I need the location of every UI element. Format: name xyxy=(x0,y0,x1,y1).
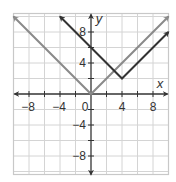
y-tick-label: 4 xyxy=(79,56,86,70)
y-tick-label: −4 xyxy=(72,118,86,132)
x-tick-label: −8 xyxy=(21,100,35,114)
x-tick-label: −4 xyxy=(52,100,66,114)
origin-label: 0 xyxy=(82,100,89,114)
coordinate-plane-chart: −8 −4 0 4 8 8 4 −4 −8 x y xyxy=(0,0,176,182)
x-tick-label: 8 xyxy=(150,100,157,114)
x-tick-label: 4 xyxy=(119,100,126,114)
y-tick-label: −8 xyxy=(72,149,86,163)
y-tick-label: 8 xyxy=(79,25,86,39)
x-axis-label: x xyxy=(156,76,164,91)
